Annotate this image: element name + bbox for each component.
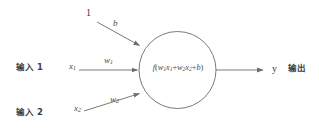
formula-close-paren: ) bbox=[201, 63, 204, 72]
input-2-variable-subscript: 2 bbox=[78, 107, 81, 113]
input-1-weight-subscript: 1 bbox=[110, 59, 113, 65]
bias-connection-line bbox=[97, 22, 140, 46]
neuron-activation-formula: f(w1x1+w2x2+b) bbox=[139, 63, 217, 72]
input-2-variable: x2 bbox=[74, 104, 81, 113]
output-variable-label: y bbox=[272, 64, 277, 74]
bias-weight-label: b bbox=[113, 19, 118, 28]
bias-source-label: 1 bbox=[86, 8, 91, 18]
input-1-weight-label: w1 bbox=[104, 56, 113, 65]
neuron-diagram-canvas: 1 b 输入 1 x1 w1 输入 2 x2 w2 f(w1x1+w2x2+b)… bbox=[0, 0, 319, 130]
input-1-group-label: 输入 1 bbox=[16, 63, 43, 72]
input-2-weight-label: w2 bbox=[110, 95, 119, 104]
output-group-label: 输出 bbox=[288, 64, 306, 73]
input-1-variable-subscript: 1 bbox=[73, 65, 76, 71]
input-2-weight-subscript: 2 bbox=[116, 98, 119, 104]
input-1-variable: x1 bbox=[69, 62, 76, 71]
input-2-group-label: 输入 2 bbox=[16, 108, 43, 117]
